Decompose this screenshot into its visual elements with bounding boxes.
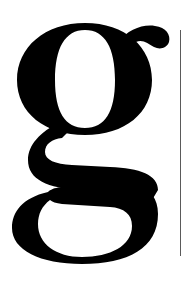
vertical-rule — [180, 30, 181, 256]
g-ear — [118, 26, 169, 54]
g-glyph-drawing — [0, 0, 188, 283]
g-lower-loop — [12, 186, 158, 264]
letter-g-glyph: g — [0, 0, 188, 283]
